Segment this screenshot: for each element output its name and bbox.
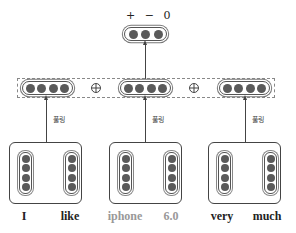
pooled-node: [223, 84, 232, 93]
word-node: [68, 164, 76, 172]
word-node: [168, 183, 176, 191]
word-vector: [119, 152, 132, 194]
output-node: [154, 30, 163, 39]
word-node: [122, 155, 130, 163]
word-node: [22, 155, 30, 163]
word-node: [168, 164, 176, 172]
pooled-node: [234, 84, 243, 93]
word-node: [22, 174, 30, 182]
pooled-node: [257, 84, 266, 93]
word-label: 6.0: [164, 209, 179, 224]
output-node: [141, 30, 150, 39]
pooling-label: 풀링: [252, 114, 264, 124]
pooling-arrow-1: [46, 99, 47, 142]
pooled-node: [124, 84, 133, 93]
pooled-node: [147, 84, 156, 93]
concat-oplus-icon: [91, 83, 101, 93]
word-node: [68, 155, 76, 163]
arrowhead-icon: [44, 95, 48, 100]
pooling-label: 풀링: [53, 114, 65, 124]
output-vector: [124, 27, 167, 41]
arrowhead-icon: [143, 95, 147, 100]
word-group-box-1: [9, 142, 82, 204]
word-label: I: [22, 209, 27, 224]
word-node: [221, 174, 229, 182]
word-vector: [19, 152, 32, 194]
word-vector: [165, 152, 178, 194]
word-node: [22, 164, 30, 172]
word-node: [221, 155, 229, 163]
pooled-vector-2: [120, 81, 171, 95]
word-node: [267, 174, 275, 182]
word-node: [221, 183, 229, 191]
pooled-node: [60, 84, 69, 93]
arrow-to-output: [145, 44, 146, 79]
word-node: [168, 155, 176, 163]
word-node: [168, 174, 176, 182]
word-vector: [264, 152, 277, 194]
pooling-arrow-3: [245, 99, 246, 142]
word-node: [221, 164, 229, 172]
word-label: very: [211, 209, 234, 224]
arrowhead-icon: [243, 95, 247, 100]
word-node: [267, 164, 275, 172]
word-group-box-3: [208, 142, 281, 204]
pooling-label: 풀링: [152, 114, 164, 124]
concat-oplus-icon: [189, 83, 199, 93]
word-label: much: [253, 209, 282, 224]
word-label: like: [61, 209, 80, 224]
word-node: [267, 155, 275, 163]
pooled-node: [246, 84, 255, 93]
pooled-node: [26, 84, 35, 93]
word-label: iphone: [108, 209, 143, 224]
output-node: [129, 30, 138, 39]
pooled-vector-3: [219, 81, 270, 95]
word-node: [122, 174, 130, 182]
word-node: [68, 174, 76, 182]
word-node: [122, 183, 130, 191]
pooled-node: [158, 84, 167, 93]
word-node: [267, 183, 275, 191]
word-vector: [65, 152, 78, 194]
pooled-node: [37, 84, 46, 93]
output-class-label: + − 0: [126, 9, 173, 22]
word-node: [22, 183, 30, 191]
word-vector: [218, 152, 231, 194]
word-node: [68, 183, 76, 191]
pooled-node: [49, 84, 58, 93]
pooled-node: [135, 84, 144, 93]
word-group-box-2: [109, 142, 182, 204]
pooling-arrow-2: [145, 99, 146, 142]
pooled-vector-1: [22, 81, 73, 95]
word-node: [122, 164, 130, 172]
arrowhead-icon: [143, 40, 147, 45]
